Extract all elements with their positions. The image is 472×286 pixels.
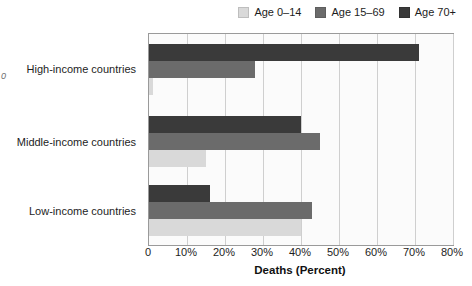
bar-age-15-69 — [149, 133, 320, 150]
bar-age-70-plus — [149, 44, 419, 61]
plot-area — [148, 33, 454, 246]
chart-legend: Age 0–14 Age 15–69 Age 70+ — [0, 7, 472, 18]
category-label-low-income: Low-income countries — [29, 205, 136, 217]
x-tick-label: 60% — [365, 246, 387, 258]
x-axis-tick-labels: 010%20%30%40%50%60%70%80% — [148, 246, 452, 260]
gridline — [453, 34, 454, 245]
legend-label: Age 0–14 — [254, 7, 301, 18]
x-tick-label: 70% — [403, 246, 425, 258]
x-tick-label: 50% — [327, 246, 349, 258]
x-tick-label: 40% — [289, 246, 311, 258]
x-tick-label: 0 — [145, 246, 151, 258]
x-axis-title: Deaths (Percent) — [148, 264, 452, 276]
legend-label: Age 70+ — [415, 7, 456, 18]
legend-swatch-icon — [315, 7, 326, 18]
x-tick-label: 80% — [441, 246, 463, 258]
legend-item-age-15-69: Age 15–69 — [315, 7, 384, 18]
x-tick-label: 10% — [175, 246, 197, 258]
x-tick-label: 20% — [213, 246, 235, 258]
legend-item-age-0-14: Age 0–14 — [238, 7, 301, 18]
legend-item-age-70-plus: Age 70+ — [399, 7, 456, 18]
bar-age-0-14 — [149, 150, 206, 167]
x-tick-label: 30% — [251, 246, 273, 258]
legend-swatch-icon — [399, 7, 410, 18]
bar-age-0-14 — [149, 78, 153, 95]
category-axis-labels: High-income countries Middle-income coun… — [0, 30, 142, 244]
legend-label: Age 15–69 — [331, 7, 384, 18]
bar-age-0-14 — [149, 219, 301, 236]
bar-age-15-69 — [149, 61, 255, 78]
chart-figure: Age 0–14 Age 15–69 Age 70+ 0 High-income… — [0, 0, 472, 286]
category-label-high-income: High-income countries — [27, 63, 136, 75]
bar-age-70-plus — [149, 116, 301, 133]
bar-age-70-plus — [149, 185, 210, 202]
category-label-middle-income: Middle-income countries — [17, 136, 136, 148]
legend-swatch-icon — [238, 7, 249, 18]
bar-age-15-69 — [149, 202, 312, 219]
bar-series-container — [149, 34, 453, 245]
